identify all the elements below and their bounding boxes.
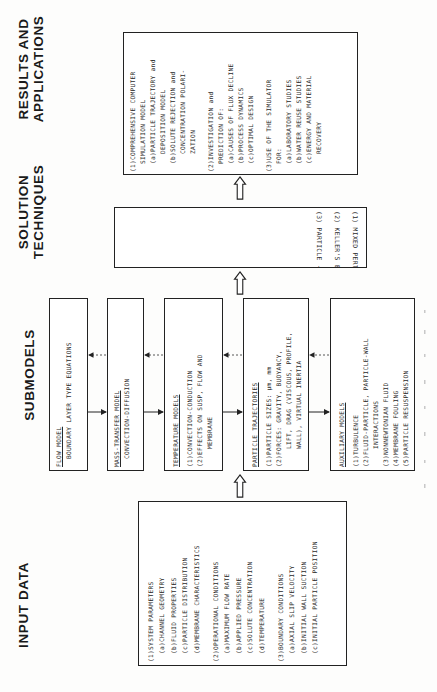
list-item: (d)TEMPERATURE (256, 507, 267, 662)
list-item: (d)MEMBRANE CHARACTERISTICS (191, 507, 202, 662)
list-item: (c)INITIAL PARTICLE POSITION (309, 507, 320, 662)
list-item: (c)PARTICLE DISTRIBUTION (179, 507, 190, 662)
list-spacer (202, 507, 210, 662)
list-item: (a)MAXIMUM FLOW RATE (221, 507, 232, 662)
list-item: (c)SOLUTE CONCENTRATION (244, 507, 255, 662)
list-item: (2)OPERATIONAL CONDITIONS (210, 507, 221, 662)
list-item: (b)INITIAL WALL SUCTION (298, 507, 309, 662)
list-item: (1)SYSTEM PARAMETERS (145, 507, 156, 662)
input-data-box: (1)SYSTEM PARAMETERS(a)CHANNEL GEOMETRY(… (138, 501, 347, 666)
list-spacer (267, 507, 275, 662)
list-item: (3)BOUNDARY CONDITIONS (275, 507, 286, 662)
list-item: (a)CHANNEL GEOMETRY (156, 507, 167, 662)
list-item: (b)FLUID PROPERTIES (168, 507, 179, 662)
list-item: (b)APPLIED PRESSURE (233, 507, 244, 662)
block-arrow-up-icon (233, 474, 247, 498)
input-list: (1)SYSTEM PARAMETERS(a)CHANNEL GEOMETRY(… (145, 507, 321, 662)
faint-caption-marks (422, 310, 428, 490)
list-item: (a)AXIAL SLIP VELOCITY (286, 507, 297, 662)
